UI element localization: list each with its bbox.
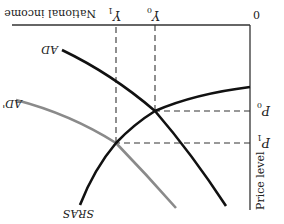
tick-label-y0: Y 0 — [147, 6, 160, 22]
y-axis-title: Price level — [254, 151, 267, 210]
svg-text:0: 0 — [257, 101, 262, 110]
tick-label-p0: P 0 — [257, 101, 271, 117]
svg-text:1: 1 — [257, 133, 262, 142]
curve-ad — [62, 50, 226, 206]
origin-label: 0 — [253, 8, 260, 21]
tick-label-p1: P 1 — [257, 133, 271, 149]
label-sras: SRAS — [62, 207, 94, 220]
curve-sras — [80, 87, 250, 205]
diagram-stage: 0 National income Price level Y 0 Y 1 P … — [0, 0, 284, 224]
x-axis-title: National income — [4, 7, 96, 20]
ad-as-diagram: 0 National income Price level Y 0 Y 1 P … — [0, 0, 284, 224]
svg-text:0: 0 — [147, 6, 152, 15]
label-ad-prime: AD' — [2, 97, 23, 110]
svg-text:P: P — [261, 103, 271, 117]
tick-label-y1: Y 1 — [108, 6, 121, 22]
svg-text:1: 1 — [108, 6, 113, 15]
svg-text:Y: Y — [112, 8, 121, 22]
curve-ad-prime — [16, 100, 176, 208]
label-ad: AD — [41, 43, 59, 56]
svg-text:P: P — [261, 135, 271, 149]
svg-text:Y: Y — [151, 8, 160, 22]
